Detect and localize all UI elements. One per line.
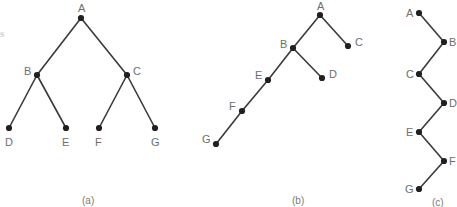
node-F xyxy=(239,108,245,114)
node-label-G: G xyxy=(405,184,414,195)
node-label-G: G xyxy=(151,137,160,148)
edge-A-B xyxy=(293,15,320,48)
panel-c xyxy=(416,10,447,192)
panel-caption-a: (a) xyxy=(82,196,94,206)
node-label-E: E xyxy=(255,70,263,81)
panel-caption-c: (c) xyxy=(432,198,444,207)
edge-B-C xyxy=(419,42,444,74)
node-label-F: F xyxy=(95,137,102,148)
node-E xyxy=(416,129,422,135)
node-label-C: C xyxy=(355,37,363,48)
node-label-G: G xyxy=(202,134,211,145)
edge-B-E xyxy=(268,48,293,80)
node-label-B: B xyxy=(280,39,288,50)
node-F xyxy=(96,125,102,131)
node-D xyxy=(6,125,12,131)
node-F xyxy=(441,158,447,164)
edge-A-B xyxy=(37,18,81,75)
edge-A-C xyxy=(320,15,348,46)
node-label-A: A xyxy=(78,3,86,14)
node-G xyxy=(152,125,158,131)
node-C xyxy=(124,72,130,78)
edge-C-F xyxy=(99,75,127,128)
node-D xyxy=(319,75,325,81)
node-label-D: D xyxy=(5,137,13,148)
node-label-E: E xyxy=(62,137,70,148)
node-label-A: A xyxy=(406,8,414,19)
node-label-D: D xyxy=(449,98,457,109)
node-C xyxy=(416,71,422,77)
node-label-B: B xyxy=(24,66,32,77)
node-label-A: A xyxy=(317,1,325,12)
node-label-E: E xyxy=(406,127,414,138)
edge-A-B xyxy=(419,13,444,42)
node-B xyxy=(34,72,40,78)
edge-E-F xyxy=(242,80,268,111)
node-A xyxy=(416,10,422,16)
node-A xyxy=(78,15,84,21)
edge-C-D xyxy=(419,74,444,103)
node-label-C: C xyxy=(133,66,141,77)
node-E xyxy=(265,77,271,83)
cut-off-text-fragment: s xyxy=(0,28,4,39)
panel-caption-b: (b) xyxy=(292,196,304,206)
edge-E-F xyxy=(419,132,444,161)
node-label-D: D xyxy=(329,69,337,80)
node-C xyxy=(345,43,351,49)
node-label-F: F xyxy=(449,156,456,167)
edge-F-G xyxy=(216,111,242,144)
edge-B-E xyxy=(37,75,66,128)
edge-A-C xyxy=(81,18,127,75)
node-B xyxy=(290,45,296,51)
node-label-B: B xyxy=(449,37,457,48)
node-label-C: C xyxy=(406,69,414,80)
node-label-F: F xyxy=(229,101,236,112)
edge-D-E xyxy=(419,103,444,132)
node-E xyxy=(63,125,69,131)
node-G xyxy=(213,141,219,147)
edge-F-G xyxy=(419,161,444,189)
node-B xyxy=(441,39,447,45)
node-G xyxy=(416,186,422,192)
node-A xyxy=(317,12,323,18)
edge-B-D xyxy=(293,48,322,78)
edge-C-G xyxy=(127,75,155,128)
edge-B-D xyxy=(9,75,37,128)
node-D xyxy=(441,100,447,106)
tree-figure: ABCDEFG(a)ABCDEFG(b)ABCDEFG(c) s xyxy=(0,0,457,207)
